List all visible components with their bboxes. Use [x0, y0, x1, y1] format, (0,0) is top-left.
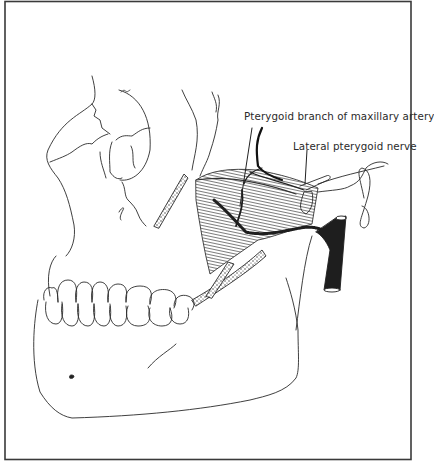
zygomatic-arch-cut — [154, 174, 188, 228]
upper-teeth — [44, 280, 194, 310]
lower-teeth — [45, 302, 188, 326]
pterygoid-plates — [182, 90, 219, 176]
leader-line-nerve — [305, 150, 307, 184]
mandible — [34, 256, 299, 418]
carotid-vessel — [316, 216, 346, 290]
orbit-zygoma — [47, 76, 150, 256]
mastoid-process — [359, 168, 370, 228]
label-lateral-pterygoid-nerve: Lateral pterygoid nerve — [293, 141, 417, 151]
label-pterygoid-branch-of-maxillary-artery: Pterygoid branch of maxillary artery — [244, 111, 434, 121]
